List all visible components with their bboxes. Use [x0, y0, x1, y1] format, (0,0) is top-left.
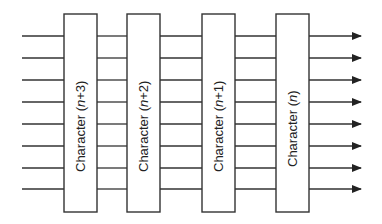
connecting-wires	[97, 36, 276, 189]
input-wires	[22, 36, 64, 189]
output-arrows	[309, 36, 361, 189]
character-box-label: Character (n+2)	[136, 81, 151, 172]
character-box-label: Character (n+1)	[211, 81, 226, 172]
character-box-label: Character (n)	[285, 90, 300, 167]
character-box-n-plus-1: Character (n+1)	[202, 14, 235, 212]
character-box-label: Character (n+3)	[73, 81, 88, 172]
character-box-n-plus-2: Character (n+2)	[127, 14, 160, 212]
character-box-n: Character (n)	[276, 14, 309, 212]
character-box-n-plus-3: Character (n+3)	[64, 14, 97, 212]
character-pipeline-diagram: Character (n+3) Character (n+2) Characte…	[0, 0, 382, 224]
